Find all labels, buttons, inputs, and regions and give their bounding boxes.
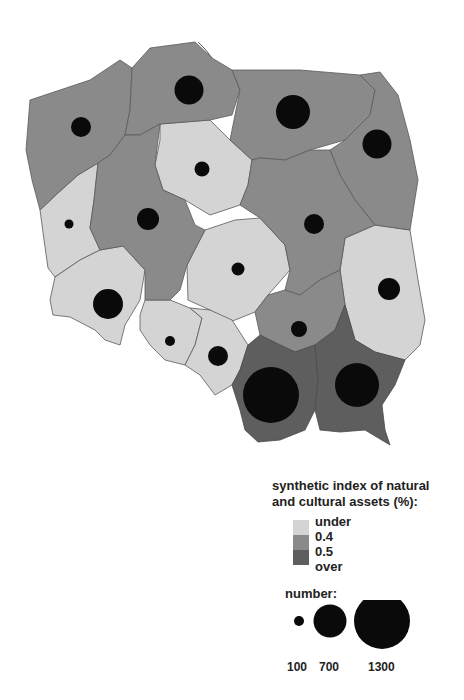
legend-label-0-4: 0.4	[315, 529, 351, 544]
symbol-pomorskie	[175, 76, 204, 105]
legend-title-line2: and cultural assets (%):	[272, 494, 429, 510]
symbol-wielkopolskie	[137, 208, 159, 230]
symbol-warminsko-mazurskie	[276, 95, 310, 129]
symbol-podlaskie	[363, 130, 392, 159]
swatch-under-0-4	[293, 520, 309, 535]
size-label-1300: 1300	[368, 660, 395, 674]
symbol-lodzkie	[232, 263, 245, 276]
symbol-slaskie	[208, 346, 228, 366]
symbol-mazowieckie	[304, 214, 324, 234]
size-symbol-700	[314, 605, 347, 638]
legend-class-labels: under 0.4 0.5 over	[315, 514, 351, 574]
poland-map	[0, 0, 464, 460]
legend-label-0-5: 0.5	[315, 544, 351, 559]
legend-label-over: over	[315, 559, 351, 574]
legend-number-title: number:	[285, 586, 337, 601]
legend-label-under: under	[315, 514, 351, 529]
symbol-lubelskie	[378, 278, 400, 300]
symbol-opolskie	[165, 336, 175, 346]
size-symbol-1300	[354, 600, 410, 649]
legend-title: synthetic index of natural and cultural …	[272, 478, 429, 510]
size-symbol-100	[294, 616, 304, 626]
swatch-over-0-5	[293, 550, 309, 565]
symbol-podkarpackie	[335, 363, 379, 407]
symbol-zachodniopomorskie	[71, 117, 91, 137]
symbol-dolnoslaskie	[93, 289, 123, 319]
legend-swatches	[293, 520, 309, 565]
swatch-0-4-to-0-5	[293, 535, 309, 550]
size-label-100: 100	[287, 660, 307, 674]
symbol-lubuskie	[65, 220, 74, 229]
size-label-700: 700	[319, 660, 339, 674]
symbol-kujawsko-pomorskie	[195, 162, 210, 177]
legend-title-line1: synthetic index of natural	[272, 478, 429, 494]
symbol-swietokrzyskie	[291, 321, 307, 337]
symbol-malopolskie	[243, 367, 299, 423]
